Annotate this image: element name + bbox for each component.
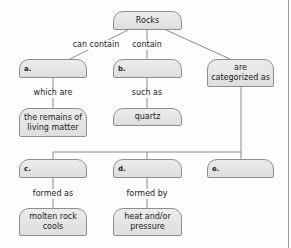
node-categorized-label: are categorized as	[210, 63, 271, 83]
node-rocks-label: Rocks	[136, 16, 159, 26]
page-edge-divider	[288, 0, 289, 248]
node-quartz-label: quartz	[135, 112, 161, 122]
node-rocks: Rocks	[113, 11, 182, 30]
node-categorized: are categorized as	[207, 59, 274, 87]
node-d: d.	[113, 159, 182, 178]
node-remains: the remains of living matter	[19, 108, 87, 137]
link-formed-by: formed by	[124, 189, 169, 199]
node-e: e.	[207, 159, 274, 178]
node-heat: heat and/or pressure	[113, 208, 182, 236]
node-molten: molten rock cools	[19, 208, 87, 236]
node-b: b.	[113, 59, 182, 78]
node-a-label: a.	[24, 64, 31, 74]
link-such-as: such as	[130, 88, 164, 98]
node-c-label: c.	[24, 164, 31, 174]
concept-map: Rocks can contain contain a. b. are cate…	[0, 0, 291, 248]
link-which-are: which are	[32, 88, 75, 98]
node-remains-label: the remains of living matter	[22, 113, 84, 133]
node-a: a.	[19, 59, 87, 78]
link-contain: contain	[130, 40, 164, 50]
node-molten-label: molten rock cools	[22, 212, 84, 232]
link-formed-as: formed as	[31, 189, 75, 199]
node-heat-label: heat and/or pressure	[116, 212, 179, 232]
node-d-label: d.	[118, 164, 126, 174]
node-e-label: e.	[212, 164, 219, 174]
node-c: c.	[19, 159, 87, 178]
node-b-label: b.	[118, 64, 126, 74]
link-can-contain: can contain	[71, 40, 122, 50]
node-quartz: quartz	[113, 108, 182, 126]
